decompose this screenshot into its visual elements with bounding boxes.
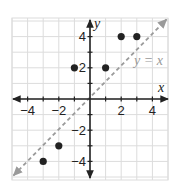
data-point	[118, 33, 125, 40]
data-point	[55, 142, 62, 149]
data-point	[133, 33, 140, 40]
data-point	[102, 64, 109, 71]
reference-line-label: y = x	[132, 53, 164, 68]
y-tick-label: −2	[71, 123, 86, 138]
y-tick-label: −4	[71, 154, 86, 169]
x-tick-label: 4	[149, 103, 156, 118]
x-tick-label: −2	[51, 103, 66, 118]
x-tick-label: −4	[20, 103, 35, 118]
x-axis-label: x	[157, 80, 165, 95]
y-axis-label: y	[92, 16, 101, 31]
y-tick-label: 4	[79, 29, 86, 44]
data-point	[71, 64, 78, 71]
data-point	[40, 158, 47, 165]
y-tick-label: 2	[79, 60, 86, 75]
axes	[13, 20, 168, 178]
coordinate-plane: −4−22442−2−4 x y y = x	[0, 0, 176, 192]
x-tick-label: 2	[118, 103, 125, 118]
